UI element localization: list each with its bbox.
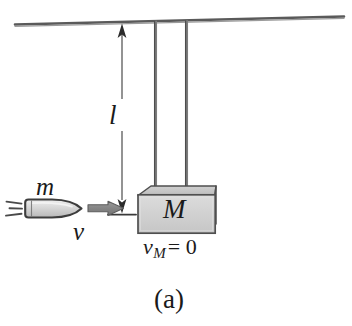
pendulum-string-right (186, 20, 187, 190)
block-mass-label: M (163, 196, 186, 223)
figure-canvas (0, 0, 352, 326)
ballistic-pendulum-figure: m v l M vM= 0 (a) (0, 0, 352, 326)
block-velocity-symbol: v (143, 234, 153, 259)
ceiling-line (15, 17, 344, 27)
bullet-mass-label: m (36, 174, 54, 199)
block-velocity-label: vM= 0 (143, 236, 197, 261)
bullet-velocity-label: v (73, 219, 84, 244)
motion-speed-lines (6, 202, 22, 216)
block-velocity-subscript: M (153, 245, 166, 261)
bullet (25, 200, 81, 218)
figure-caption: (a) (154, 286, 184, 313)
velocity-arrow (88, 201, 124, 215)
block-velocity-value: = 0 (168, 234, 197, 259)
pendulum-string-left (155, 21, 156, 190)
string-length-label: l (109, 102, 117, 129)
bullet-body (25, 200, 81, 218)
